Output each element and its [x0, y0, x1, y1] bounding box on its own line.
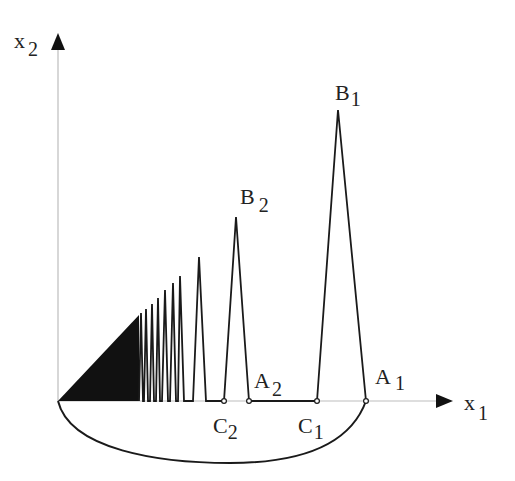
- label-c2: C2: [213, 413, 238, 443]
- x1-axis-label: x1: [464, 390, 488, 424]
- x2-axis-label: x2: [14, 28, 38, 60]
- x1-axis-arrow-icon: [436, 394, 453, 408]
- diagram-canvas: x2 x1 B1 B2 A1 A2 C1 C2: [0, 0, 515, 481]
- small-spikes: [139, 257, 224, 401]
- point-a1-marker: [364, 399, 369, 404]
- point-a2-marker: [247, 399, 252, 404]
- label-b1: B1: [335, 80, 361, 110]
- label-c1: C1: [298, 413, 324, 443]
- spike-b1: [317, 110, 366, 401]
- label-b2: B2: [240, 184, 269, 216]
- label-a1: A1: [375, 364, 405, 394]
- x2-axis-arrow-icon: [51, 33, 65, 50]
- point-c2-marker: [222, 399, 227, 404]
- point-c1-marker: [315, 399, 320, 404]
- spike-b2: [224, 217, 249, 401]
- label-a2: A2: [254, 368, 282, 400]
- dense-spike-region: [58, 315, 139, 401]
- spike-sequence: [139, 110, 366, 401]
